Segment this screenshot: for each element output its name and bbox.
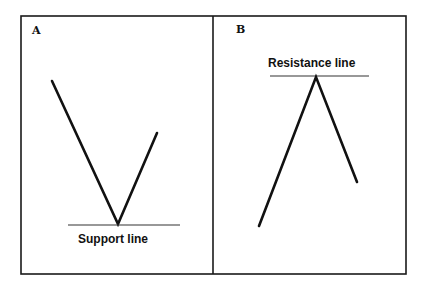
panel-b-label: B xyxy=(236,23,245,36)
panel-a-label: A xyxy=(31,24,41,37)
price-path-v xyxy=(52,81,157,224)
support-resistance-diagram: A Support line B Resistance line xyxy=(0,0,421,293)
support-line-label: Support line xyxy=(78,232,148,246)
price-path-inverted-v xyxy=(259,77,357,226)
panel-a: A Support line xyxy=(31,24,180,246)
panel-b: B Resistance line xyxy=(236,23,369,226)
resistance-line-label: Resistance line xyxy=(268,56,356,70)
